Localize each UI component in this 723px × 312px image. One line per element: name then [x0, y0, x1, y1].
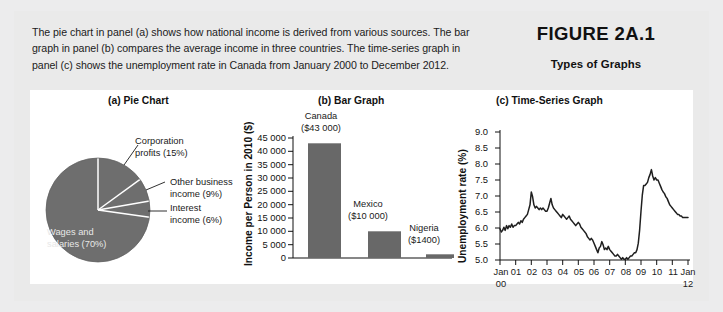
- bar-ytick-20000: 20 000: [252, 199, 286, 210]
- panel-c-title: (c) Time-Series Graph: [496, 95, 603, 106]
- bar-ytick-25000: 25 000: [252, 185, 286, 196]
- pie-label-corporation-line1: Corporation: [135, 136, 184, 146]
- ts-xtick-07: 07: [602, 267, 618, 279]
- figure-intro-text: The pie chart in panel (a) shows how nat…: [32, 24, 488, 73]
- bar-nigeria: [426, 254, 454, 258]
- pie-label-other-business-line1: Other business: [170, 177, 233, 187]
- ts-xtick-jan12-line1: Jan: [681, 267, 696, 277]
- ts-y-ticks: [495, 132, 500, 260]
- ts-xtick-jan12: Jan 12: [678, 267, 698, 290]
- bar-label-nigeria-line2: ($1400): [408, 235, 440, 245]
- pie-label-interest-line2: income (6%): [170, 215, 222, 225]
- bar-ytick-5000: 5 000: [252, 239, 286, 250]
- pie-label-other-business-line2: income (9%): [170, 189, 222, 199]
- panel-b-title: (b) Bar Graph: [318, 95, 384, 106]
- ts-xtick-jan00-line1: Jan: [494, 267, 509, 277]
- bar-ytick-45000: 45 000: [252, 132, 286, 143]
- pie-label-interest-line1: Interest: [170, 203, 201, 213]
- ts-ytick-7-0: 7.0: [467, 190, 488, 201]
- bar-ytick-40000: 40 000: [252, 145, 286, 156]
- ts-xtick-jan00-line2: 00: [496, 279, 506, 289]
- panel-a-title: (a) Pie Chart: [108, 95, 169, 106]
- pie-label-corporation: Corporation profits (15%): [135, 136, 188, 159]
- bar-label-nigeria: Nigeria ($1400): [398, 223, 450, 246]
- ts-data-line: [500, 170, 688, 260]
- bar-mexico: [368, 231, 401, 258]
- pie-label-wages-line1: Wages and: [47, 227, 94, 237]
- ts-xtick-05: 05: [571, 267, 587, 279]
- figure-frame: The pie chart in panel (a) shows how nat…: [14, 11, 709, 301]
- bar-ytick-30000: 30 000: [252, 172, 286, 183]
- ts-ytick-7-5: 7.5: [467, 174, 488, 185]
- ts-ytick-8-5: 8.5: [467, 142, 488, 153]
- figure-subtitle: Types of Graphs: [491, 58, 701, 70]
- charts-panel: (a) Pie Chart (b) Bar Graph (c) Time-Ser…: [30, 90, 693, 284]
- pie-label-wages-line2: salaries (70%): [47, 239, 106, 249]
- pie-label-corporation-line2: profits (15%): [135, 148, 188, 158]
- bar-label-mexico-line2: ($10 000): [348, 211, 388, 221]
- ts-ytick-5-0: 5.0: [467, 254, 488, 265]
- bar-ytick-15000: 15 000: [252, 212, 286, 223]
- ts-xtick-02: 02: [524, 267, 540, 279]
- bar-label-canada: Canada ($43 000): [291, 111, 351, 134]
- bar-label-nigeria-line1: Nigeria: [409, 223, 438, 233]
- bar-ytick-10000: 10 000: [252, 225, 286, 236]
- ts-xtick-06: 06: [586, 267, 602, 279]
- ts-xtick-10: 10: [649, 267, 665, 279]
- ts-xtick-03: 03: [539, 267, 555, 279]
- timeseries-chart-svg: [460, 112, 693, 284]
- bar-ytick-35000: 35 000: [252, 159, 286, 170]
- pie-label-interest: Interest income (6%): [170, 203, 222, 226]
- ts-ytick-5-5: 5.5: [467, 238, 488, 249]
- ts-xtick-09: 09: [633, 267, 649, 279]
- ts-ytick-6-5: 6.5: [467, 206, 488, 217]
- figure-header: The pie chart in panel (a) shows how nat…: [14, 11, 709, 89]
- figure-number: FIGURE 2A.1: [491, 23, 701, 45]
- ts-x-ticks: [500, 260, 688, 265]
- bar-label-mexico: Mexico ($10 000): [338, 199, 398, 222]
- bar-label-mexico-line1: Mexico: [353, 199, 382, 209]
- pie-label-wages: Wages and salaries (70%): [47, 227, 106, 250]
- pie-label-other-business: Other business income (9%): [170, 177, 233, 200]
- bar-label-canada-line1: Canada: [305, 111, 338, 121]
- bar-y-ticks: [288, 138, 293, 258]
- ts-ytick-6-0: 6.0: [467, 222, 488, 233]
- ts-xtick-01: 01: [508, 267, 524, 279]
- ts-xtick-jan12-line2: 12: [683, 279, 693, 289]
- bar-label-canada-line2: ($43 000): [301, 123, 341, 133]
- ts-xtick-04: 04: [555, 267, 571, 279]
- ts-xtick-08: 08: [618, 267, 634, 279]
- bar-canada: [308, 143, 341, 258]
- ts-ytick-9-0: 9.0: [467, 126, 488, 137]
- ts-ytick-8-0: 8.0: [467, 158, 488, 169]
- bar-ytick-0: 0: [252, 252, 286, 263]
